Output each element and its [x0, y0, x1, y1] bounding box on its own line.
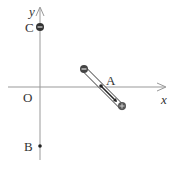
diagram-canvas: x y O C B A: [0, 0, 180, 169]
dipole-rod: [84, 69, 122, 107]
x-axis-label: x: [160, 92, 167, 107]
y-axis-label: y: [27, 4, 35, 19]
point-b-dot: [38, 144, 42, 148]
rod-top-negative-charge-icon: [80, 65, 88, 73]
rod-bottom-positive-charge-icon: [118, 102, 126, 110]
point-b-label: B: [24, 139, 33, 154]
origin-label: O: [23, 90, 32, 105]
charge-c-negative-icon: [36, 23, 44, 31]
point-a-label: A: [106, 73, 116, 88]
point-a-dot: [99, 84, 103, 88]
point-c-label: C: [25, 20, 34, 35]
